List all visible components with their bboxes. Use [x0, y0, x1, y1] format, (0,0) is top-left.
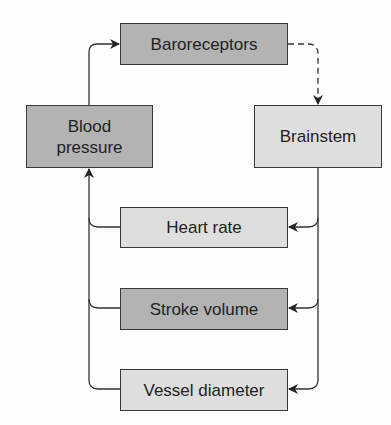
node-blood-pressure: Blood pressure	[26, 105, 153, 168]
node-label: Baroreceptors	[151, 34, 258, 55]
node-label: Blood pressure	[41, 116, 138, 158]
node-vessel-diameter: Vessel diameter	[120, 369, 288, 411]
node-label: Heart rate	[166, 217, 242, 238]
node-baroreceptors: Baroreceptors	[120, 23, 288, 65]
node-label: Vessel diameter	[144, 380, 265, 401]
node-label: Stroke volume	[150, 299, 259, 320]
node-label: Brainstem	[280, 126, 357, 147]
node-brainstem: Brainstem	[254, 105, 382, 168]
node-heart-rate: Heart rate	[120, 207, 288, 248]
node-stroke-volume: Stroke volume	[120, 288, 288, 330]
